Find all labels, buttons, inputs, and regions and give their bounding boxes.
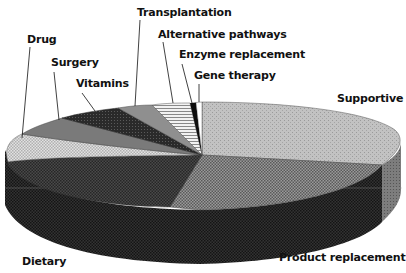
label-gene-therapy: Gene therapy <box>194 70 276 82</box>
leader-enzyme-replacement <box>182 64 192 103</box>
label-surgery: Surgery <box>51 57 99 69</box>
label-enzyme-replacement: Enzyme replacement <box>179 49 305 61</box>
label-alternative-pathways: Alternative pathways <box>158 29 287 41</box>
slice-supportive <box>202 102 400 165</box>
label-supportive: Supportive <box>337 93 403 105</box>
label-dietary: Dietary <box>22 256 66 268</box>
leader-alternative-pathways <box>163 42 173 103</box>
label-vitamins: Vitamins <box>76 78 129 90</box>
leader-drug <box>22 47 30 138</box>
leader-surgery <box>54 72 59 120</box>
label-transplantation: Transplantation <box>137 7 232 19</box>
label-drug: Drug <box>27 34 56 46</box>
leader-transplantation <box>135 20 140 106</box>
leader-vitamins <box>82 93 95 111</box>
label-product-replacement: Product replacement <box>279 252 406 264</box>
